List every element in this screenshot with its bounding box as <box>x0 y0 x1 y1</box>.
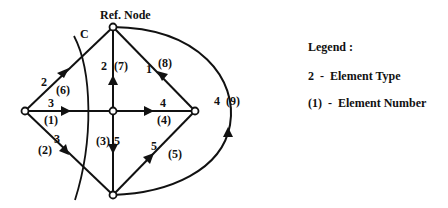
node-ref <box>110 24 117 31</box>
edge-9-number: (9) <box>226 94 240 108</box>
arrow-edge-1 <box>61 106 71 116</box>
edge-8-type: 1 <box>146 62 152 76</box>
arrow-edge-9 <box>223 127 233 137</box>
edge-2-type: 3 <box>54 132 60 146</box>
node-right <box>192 108 199 115</box>
edge-1-type: 3 <box>48 96 54 110</box>
ref-node-label: Ref. Node <box>100 8 151 22</box>
arrow-edge-4 <box>144 106 154 116</box>
edge-4-number: (4) <box>157 113 171 127</box>
edge-3-number: (3) <box>96 134 110 148</box>
cutset-label: C <box>80 27 89 41</box>
edge-1-number: (1) <box>44 113 58 127</box>
edge-7-number: (7) <box>114 59 128 73</box>
node-center <box>110 108 117 115</box>
edge-9-type: 4 <box>214 94 220 108</box>
legend-title: Legend : <box>308 40 353 55</box>
edge-6 <box>25 27 113 111</box>
edge-7-type: 2 <box>101 59 107 73</box>
arrow-edge-8 <box>157 71 168 81</box>
legend-element-type: 2 - Element Type <box>308 69 401 84</box>
arrowheads <box>57 68 233 164</box>
edge-2-number: (2) <box>38 143 52 157</box>
edge-6-number: (6) <box>56 83 70 97</box>
edge-5-type: 5 <box>151 139 157 153</box>
edge-8-number: (8) <box>158 56 172 70</box>
edge-6-type: 2 <box>41 75 47 89</box>
cutset-curve-c <box>74 36 88 200</box>
arrow-edge-6 <box>57 68 69 78</box>
legend-element-number: (1) - Element Number <box>308 96 426 111</box>
edge-5-number: (5) <box>168 147 182 161</box>
edge-3-type: 5 <box>114 134 120 148</box>
node-left <box>22 108 29 115</box>
edge-4-type: 4 <box>160 96 166 110</box>
node-bottom <box>110 192 117 199</box>
arrow-edge-7 <box>108 75 118 85</box>
